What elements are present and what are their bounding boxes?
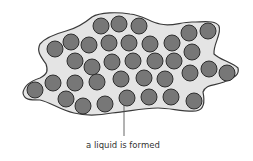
- particle: [181, 25, 197, 41]
- particle: [164, 35, 180, 51]
- particle: [67, 53, 83, 69]
- particle: [101, 35, 117, 51]
- particle: [121, 35, 137, 51]
- particle: [89, 74, 105, 90]
- particle: [186, 93, 202, 109]
- particle: [142, 36, 158, 52]
- particle: [201, 61, 217, 77]
- particle: [63, 34, 79, 50]
- particle: [93, 18, 109, 34]
- particle: [97, 96, 113, 112]
- particle: [141, 89, 157, 105]
- particle: [200, 23, 216, 39]
- particle: [157, 71, 173, 87]
- particle: [47, 41, 63, 57]
- particle: [81, 37, 97, 53]
- particle: [104, 54, 120, 70]
- particle: [125, 53, 141, 69]
- particle: [182, 65, 198, 81]
- particle: [84, 59, 100, 75]
- particle: [163, 89, 179, 105]
- particle: [166, 53, 182, 69]
- particle: [27, 82, 43, 98]
- particle: [45, 75, 61, 91]
- particle: [184, 44, 200, 60]
- particle: [119, 90, 135, 106]
- particle: [58, 91, 74, 107]
- particle: [67, 75, 83, 91]
- particle: [75, 98, 91, 114]
- particle: [147, 53, 163, 69]
- particle: [111, 16, 127, 32]
- liquid-particle-diagram: [0, 0, 253, 161]
- particle: [136, 70, 152, 86]
- particle: [131, 18, 147, 34]
- particle: [113, 71, 129, 87]
- particle: [219, 65, 235, 81]
- caption-label: a liquid is formed: [86, 140, 160, 150]
